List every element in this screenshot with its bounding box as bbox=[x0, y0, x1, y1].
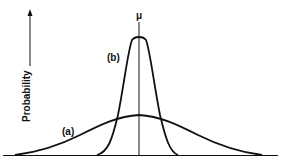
mean-label: μ bbox=[136, 10, 142, 21]
curve-a-label: (a) bbox=[62, 126, 74, 137]
distribution-diagram: Probability μ (a) (b) bbox=[0, 0, 287, 166]
curve-b-label: (b) bbox=[107, 52, 120, 63]
y-axis-label: Probability bbox=[21, 70, 32, 122]
y-axis-arrow bbox=[28, 9, 33, 66]
